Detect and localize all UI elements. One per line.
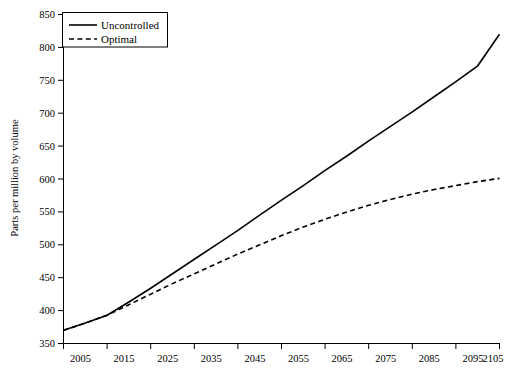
x-tick-label: 2015 [114,353,135,364]
x-axis-tick-labels: 2005 2015 2025 2035 2045 2055 2065 2075 … [70,353,504,364]
y-axis-tick-labels: 850 800 750 700 650 600 550 500 450 400 … [39,9,55,349]
legend-label-optimal: Optimal [101,33,137,45]
plot-series-group [64,34,500,330]
x-tick-label: 2025 [157,353,178,364]
x-tick-label: 2105 [483,353,504,364]
y-tick-label: 600 [39,174,55,185]
x-tick-label: 2085 [419,353,440,364]
y-tick-label: 450 [39,272,55,283]
y-axis-title: Parts per million by volume [9,119,20,237]
x-tick-label: 2045 [244,353,265,364]
legend-label-uncontrolled: Uncontrolled [101,19,160,31]
x-axis-ticks [64,344,500,350]
y-tick-label: 800 [39,42,55,53]
y-tick-label: 700 [39,108,55,119]
x-tick-label: 2055 [288,353,309,364]
x-tick-label: 2005 [70,353,91,364]
y-axis-ticks [58,15,64,344]
chart-figure: 850 800 750 700 650 600 550 500 450 400 … [0,0,510,373]
series-line-uncontrolled [64,34,500,330]
series-line-optimal [64,178,500,330]
y-tick-label: 500 [39,239,55,250]
x-tick-label: 2065 [332,353,353,364]
y-tick-label: 350 [39,338,55,349]
y-tick-label: 650 [39,141,55,152]
y-tick-label: 850 [39,9,55,20]
x-tick-label: 2075 [375,353,396,364]
x-tick-label: 2035 [201,353,222,364]
line-chart-canvas: 850 800 750 700 650 600 550 500 450 400 … [0,0,510,373]
y-tick-label: 750 [39,75,55,86]
x-tick-label: 2095 [462,353,483,364]
legend: Uncontrolled Optimal [63,13,168,48]
y-tick-label: 400 [39,305,55,316]
y-tick-label: 550 [39,206,55,217]
